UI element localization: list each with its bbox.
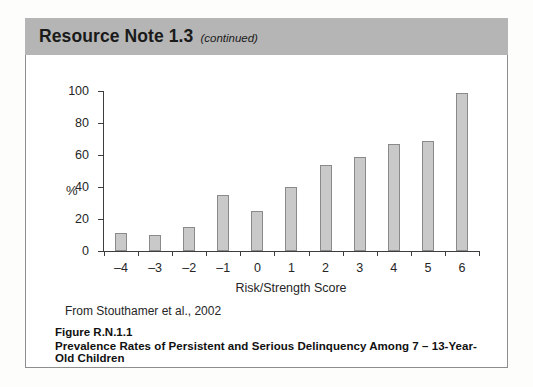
bar-slot bbox=[377, 91, 411, 251]
plot-area: 020406080100 –4–3–2–10123456 bbox=[103, 91, 478, 251]
page-title-continued: (continued) bbox=[200, 32, 258, 44]
x-tick bbox=[377, 251, 378, 256]
x-axis-title: Risk/Strength Score bbox=[103, 281, 479, 295]
x-tick bbox=[309, 251, 310, 256]
x-tick-label: 4 bbox=[390, 261, 397, 275]
x-tick bbox=[479, 251, 480, 256]
x-tick bbox=[411, 251, 412, 256]
x-tick-label: –4 bbox=[114, 261, 128, 275]
y-tick: 20 bbox=[98, 219, 103, 220]
y-tick-label: 20 bbox=[75, 212, 89, 226]
y-tick: 60 bbox=[98, 155, 103, 156]
bar bbox=[149, 235, 161, 251]
x-tick-label: 5 bbox=[424, 261, 431, 275]
x-tick bbox=[240, 251, 241, 256]
x-tick-label: –1 bbox=[216, 261, 230, 275]
bar-slot bbox=[309, 91, 343, 251]
x-tick-label: 1 bbox=[288, 261, 295, 275]
source-note: From Stouthamer et al., 2002 bbox=[65, 304, 221, 318]
y-tick: 100 bbox=[98, 91, 103, 92]
bar-series bbox=[104, 91, 479, 251]
x-tick bbox=[343, 251, 344, 256]
y-tick-label: 80 bbox=[75, 116, 89, 130]
x-tick bbox=[274, 251, 275, 256]
x-tick bbox=[172, 251, 173, 256]
bar-slot bbox=[104, 91, 138, 251]
bar bbox=[320, 165, 332, 251]
resource-note-header: Resource Note 1.3 (continued) bbox=[25, 18, 508, 55]
bar-slot bbox=[172, 91, 206, 251]
x-tick-label: –2 bbox=[182, 261, 196, 275]
x-tick-label: 2 bbox=[322, 261, 329, 275]
y-tick-label: 60 bbox=[75, 148, 89, 162]
figure-number: Figure R.N.1.1 bbox=[55, 326, 495, 338]
figure-title: Prevalence Rates of Persistent and Serio… bbox=[55, 340, 495, 364]
bar-slot bbox=[206, 91, 240, 251]
y-tick-label: 100 bbox=[68, 84, 89, 98]
bar bbox=[183, 227, 195, 251]
page-title: Resource Note 1.3 bbox=[39, 26, 193, 47]
bar bbox=[251, 211, 263, 251]
bar bbox=[217, 195, 229, 251]
x-tick bbox=[445, 251, 446, 256]
x-tick-label: 3 bbox=[356, 261, 363, 275]
bar-slot bbox=[274, 91, 308, 251]
y-tick: 0 bbox=[98, 251, 103, 252]
bar-chart: % 020406080100 –4–3–2–10123456 Risk/Stre… bbox=[66, 85, 486, 300]
bar bbox=[422, 141, 434, 251]
y-tick: 80 bbox=[98, 123, 103, 124]
bar-slot bbox=[138, 91, 172, 251]
bar bbox=[285, 187, 297, 251]
bar-slot bbox=[343, 91, 377, 251]
y-tick-label: 40 bbox=[75, 180, 89, 194]
bar bbox=[456, 93, 468, 251]
x-tick-label: 0 bbox=[254, 261, 261, 275]
x-tick bbox=[206, 251, 207, 256]
resource-note-panel: % 020406080100 –4–3–2–10123456 Risk/Stre… bbox=[25, 55, 508, 368]
y-tick: 40 bbox=[98, 187, 103, 188]
x-axis-line bbox=[103, 251, 479, 252]
bar-slot bbox=[411, 91, 445, 251]
bar bbox=[388, 144, 400, 251]
bar-slot bbox=[240, 91, 274, 251]
figure-caption: Figure R.N.1.1 Prevalence Rates of Persi… bbox=[55, 326, 495, 364]
x-tick bbox=[104, 251, 105, 256]
bar bbox=[115, 233, 127, 251]
bar-slot bbox=[445, 91, 479, 251]
resource-note-page: Resource Note 1.3 (continued) % 02040608… bbox=[0, 0, 533, 387]
x-tick bbox=[138, 251, 139, 256]
x-tick-label: 6 bbox=[458, 261, 465, 275]
bar bbox=[354, 157, 366, 251]
x-tick-label: –3 bbox=[148, 261, 162, 275]
y-tick-label: 0 bbox=[82, 244, 89, 258]
